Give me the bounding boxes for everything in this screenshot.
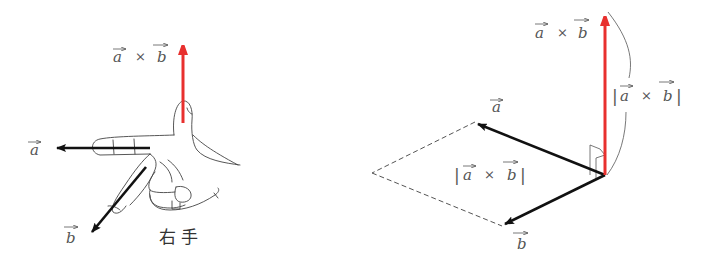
hand-outline-icon [93, 101, 241, 213]
svg-text:×: × [557, 25, 568, 40]
svg-text:×: × [641, 88, 652, 103]
svg-text:|: | [612, 86, 618, 106]
svg-text:b: b [578, 24, 588, 42]
svg-text:b: b [517, 235, 527, 253]
right-hand-figure: a × b a b 右 手 [28, 45, 240, 247]
dashed-edge-bottom [372, 173, 502, 226]
vector-a-label-left: a [28, 141, 41, 159]
svg-text:|: | [676, 86, 682, 106]
svg-text:a: a [30, 141, 39, 159]
svg-text:a: a [113, 48, 122, 66]
vector-a-arrow-right [478, 124, 605, 175]
svg-text:|: | [454, 165, 460, 185]
vector-a-label-right: a [490, 98, 503, 116]
svg-text:b: b [507, 166, 517, 184]
svg-text:×: × [135, 49, 146, 64]
cross-product-label-right: a × b [535, 20, 589, 42]
vector-b-arrow [92, 167, 146, 232]
svg-text:a: a [463, 166, 472, 184]
magnitude-label-area: | a × b | [454, 162, 526, 185]
svg-text:|: | [520, 165, 526, 185]
magnitude-arc [608, 12, 631, 78]
cross-product-label-left: a × b [113, 45, 168, 66]
parallelogram-figure: a × b | a × b | a | a × b | [372, 12, 682, 253]
svg-text:a: a [492, 98, 501, 116]
cross-product-diagram: a × b a b 右 手 a [0, 0, 713, 267]
svg-text:×: × [484, 167, 495, 182]
svg-text:b: b [157, 48, 167, 66]
svg-text:b: b [66, 229, 76, 247]
svg-text:a: a [620, 87, 629, 105]
magnitude-label-vertical: | a × b | [612, 82, 682, 106]
vector-b-label-right: b [513, 233, 528, 253]
svg-text:a: a [535, 24, 544, 42]
right-hand-caption: 右 手 [159, 227, 198, 247]
svg-text:b: b [663, 87, 673, 105]
vector-b-label-left: b [64, 227, 78, 247]
